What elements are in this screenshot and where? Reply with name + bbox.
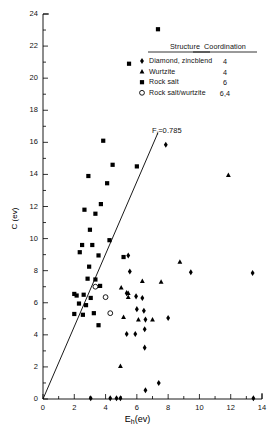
data-point [140,295,144,301]
x-tick-label: 14 [252,403,272,412]
data-point [150,317,155,322]
data-point [111,163,115,167]
data-point [143,345,147,351]
data-point [98,284,102,288]
data-point [99,202,103,206]
x-axis-label-unit: (ev) [135,414,151,424]
x-axis-label: Eh(ev) [0,414,275,425]
data-point [107,238,111,242]
data-point [78,250,82,254]
data-point [82,293,86,297]
data-point [72,312,76,316]
y-tick-label: 14 [18,169,38,178]
legend-coordination-1: 4 [193,68,257,77]
data-point [118,363,123,368]
data-point [103,295,108,300]
series-square [72,27,160,327]
data-point [157,380,161,386]
legend-header-coordination: Coordination [193,42,257,51]
data-point [142,308,146,314]
data-point [86,174,90,178]
refline-label-value: =0.785 [158,126,182,135]
data-point [89,395,93,401]
data-point [177,259,182,264]
y-tick-label: 16 [18,137,38,146]
x-tick-label: 4 [96,403,116,412]
data-point [101,139,105,143]
data-point [135,306,139,312]
data-point [159,279,164,284]
y-tick-label: 10 [18,234,38,243]
x-tick-label: 12 [221,403,241,412]
data-point [134,293,138,299]
data-point [127,62,131,66]
data-point [121,315,126,320]
y-axis-label: C (ev) [10,196,19,242]
data-point [144,317,148,323]
x-tick-label: 6 [127,403,147,412]
data-point [93,284,98,289]
x-tick-label: 8 [158,403,178,412]
data-point [75,293,79,297]
data-point [92,311,96,315]
data-point [251,395,255,401]
data-point [125,331,129,337]
data-point [88,228,92,232]
data-point [108,311,113,316]
data-point [77,301,81,305]
data-point [85,277,89,281]
series-diamond [89,142,256,402]
data-point [136,317,141,322]
x-tick-label: 0 [33,403,53,412]
y-tick-label: 4 [18,330,38,339]
legend-coordination-2: 6 [193,78,257,87]
data-point [226,173,231,178]
series-circle-open [93,284,113,315]
data-point [135,164,139,168]
data-point [189,269,193,275]
y-tick-label: 2 [18,362,38,371]
y-tick-label: 0 [18,394,38,403]
data-point [251,270,255,276]
y-tick-label: 24 [18,9,38,18]
data-point [126,252,130,258]
data-point [121,255,125,259]
data-point [105,181,109,185]
data-point [119,395,123,401]
data-point [143,326,147,332]
data-point [128,268,132,274]
refline-label: Fi=0.785 [152,126,182,136]
legend-coordination-3: 6,4 [193,89,257,98]
y-tick-label: 20 [18,73,38,82]
y-tick-label: 22 [18,41,38,50]
data-point [82,208,86,212]
data-point [96,323,100,327]
data-point [115,395,119,401]
y-tick-label: 8 [18,266,38,275]
data-point [140,278,145,283]
data-point [156,27,160,31]
data-point [93,212,97,216]
series-triangle [118,173,231,368]
data-point [119,285,124,290]
x-tick-label: 2 [64,403,84,412]
data-point [81,313,85,317]
data-point [108,395,112,401]
figure-scatter-plot: 02468101214161820222402468101214 C (ev) … [0,0,275,436]
data-point [87,265,91,269]
data-point [133,331,137,337]
data-point [166,315,170,321]
data-point [84,303,88,307]
reference-line-fi [43,133,158,399]
legend-coordination-0: 4 [193,57,257,66]
data-point [89,296,93,300]
data-point [80,243,84,247]
data-point [144,387,148,393]
x-tick-label: 10 [189,403,209,412]
data-point [90,243,94,247]
y-tick-label: 12 [18,202,38,211]
y-tick-label: 6 [18,298,38,307]
data-point [96,253,100,257]
data-point [93,277,97,281]
data-point [164,142,168,148]
